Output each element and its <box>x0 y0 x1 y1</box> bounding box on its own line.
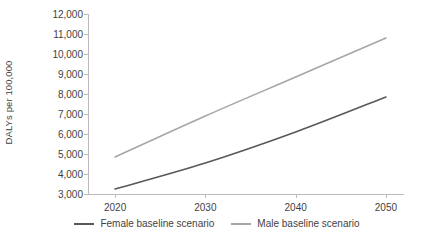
y-axis-title: DALYs per 100,000 <box>0 0 18 205</box>
y-tick-label: 4,000 <box>58 169 83 180</box>
y-tick-label: 12,000 <box>52 9 83 20</box>
y-tick-label: 8,000 <box>58 89 83 100</box>
y-tick-label: 11,000 <box>53 29 83 40</box>
x-tick-mark <box>386 194 387 198</box>
series-line <box>115 97 386 189</box>
x-tick-label: 2050 <box>375 202 397 213</box>
x-tick-label: 2040 <box>285 202 307 213</box>
legend-line-swatch <box>231 223 251 225</box>
y-tick-mark <box>84 194 88 195</box>
legend-line-swatch <box>74 223 94 225</box>
x-tick-mark <box>205 194 206 198</box>
series-line <box>115 38 386 157</box>
series-lines <box>88 14 404 194</box>
legend-label: Male baseline scenario <box>257 218 359 229</box>
y-tick-label: 6,000 <box>58 129 83 140</box>
legend-item[interactable]: Female baseline scenario <box>74 218 214 229</box>
y-tick-label: 5,000 <box>58 149 83 160</box>
y-tick-label: 9,000 <box>58 69 83 80</box>
x-tick-mark <box>115 194 116 198</box>
chart-page: DALYs per 100,000 12,00011,00010,0009,00… <box>0 0 434 243</box>
y-axis-title-label: DALYs per 100,000 <box>4 61 15 145</box>
chart-legend: Female baseline scenarioMale baseline sc… <box>0 218 434 229</box>
y-tick-label: 7,000 <box>58 109 83 120</box>
x-tick-label: 2030 <box>194 202 216 213</box>
y-tick-label: 3,000 <box>58 189 83 200</box>
legend-label: Female baseline scenario <box>100 218 214 229</box>
x-tick-mark <box>296 194 297 198</box>
plot-area: 12,00011,00010,0009,0008,0007,0006,0005,… <box>88 14 404 194</box>
x-tick-label: 2020 <box>104 202 126 213</box>
legend-item[interactable]: Male baseline scenario <box>231 218 359 229</box>
x-axis-line <box>88 194 404 195</box>
y-tick-label: 10,000 <box>52 49 83 60</box>
